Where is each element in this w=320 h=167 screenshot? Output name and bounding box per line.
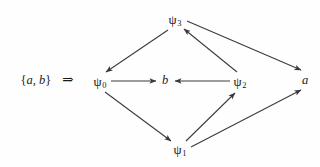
edges-group	[105, 21, 301, 147]
diagram-figure: {a, b}⇒ ψ3 ψ0 b ψ2 a ψ1	[0, 0, 320, 167]
edge-psi1-to-a	[191, 90, 301, 147]
node-psi0-symbol: ψ	[94, 74, 102, 89]
node-psi3[interactable]: ψ3	[169, 13, 182, 28]
node-psi2-symbol: ψ	[234, 74, 242, 89]
node-psi1[interactable]: ψ1	[174, 143, 187, 158]
node-psi0-subscript: 0	[102, 80, 107, 90]
node-a-symbol: a	[302, 73, 308, 87]
edge-psi3-to-psi0	[106, 30, 168, 72]
node-a[interactable]: a	[302, 74, 308, 87]
edge-psi0-to-psi1	[105, 92, 171, 141]
node-psi3-symbol: ψ	[169, 12, 177, 27]
edge-psi1-to-psi2	[186, 93, 235, 141]
node-psi3-subscript: 3	[177, 18, 182, 28]
node-psi0[interactable]: ψ0	[94, 75, 107, 90]
node-b[interactable]: b	[162, 74, 168, 87]
node-b-symbol: b	[162, 73, 168, 87]
edge-layer	[0, 0, 320, 167]
node-psi1-subscript: 1	[182, 148, 187, 158]
node-psi2-subscript: 2	[242, 80, 247, 90]
edge-psi2-to-psi3	[184, 29, 237, 72]
node-psi2[interactable]: ψ2	[234, 75, 247, 90]
node-psi1-symbol: ψ	[174, 142, 182, 157]
